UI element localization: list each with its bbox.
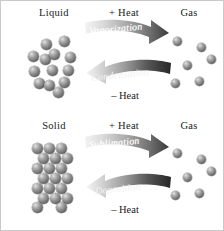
gas-molecule xyxy=(183,61,192,70)
phase-change-diagram: Liquid + Heat Gas Vaporization xyxy=(0,0,224,231)
liquid-molecule xyxy=(59,36,70,47)
condensation-arrow: Condensation xyxy=(81,59,173,91)
gas-molecule xyxy=(195,77,204,86)
sublimation-arrow: Sublimation xyxy=(83,133,171,165)
solid-molecule xyxy=(32,202,43,213)
deposition-arrow: Deposition xyxy=(81,173,173,205)
gas-molecule xyxy=(183,173,192,182)
label-liquid: Liquid xyxy=(23,7,85,18)
label-minus-heat-top: – Heat xyxy=(85,90,165,101)
solid-molecule xyxy=(56,202,67,213)
gas-molecule xyxy=(173,37,182,46)
gas-molecule xyxy=(207,167,216,176)
gas-molecule xyxy=(195,189,204,198)
label-gas-bottom: Gas xyxy=(161,120,217,131)
gas-molecule xyxy=(173,149,182,158)
liquid-molecule xyxy=(41,39,52,50)
label-gas-top: Gas xyxy=(161,7,217,18)
liquid-molecule-cluster xyxy=(25,25,83,99)
liquid-molecule xyxy=(53,87,64,98)
gas-molecule xyxy=(207,55,216,64)
liquid-molecule xyxy=(65,52,76,63)
solid-molecule-lattice xyxy=(29,139,79,215)
label-solid: Solid xyxy=(23,120,85,131)
gas-molecule xyxy=(197,155,206,164)
gas-molecule-cluster-bottom xyxy=(167,141,217,203)
liquid-molecule xyxy=(47,65,58,76)
label-minus-heat-bottom: – Heat xyxy=(85,204,165,215)
liquid-molecule xyxy=(28,51,39,62)
liquid-molecule xyxy=(49,49,60,60)
liquid-molecule xyxy=(63,65,74,76)
panel-solid-gas: Solid + Heat Gas Sublimation xyxy=(1,113,224,231)
vaporization-arrow: Vaporization xyxy=(83,19,171,51)
gas-molecule xyxy=(197,43,206,52)
label-plus-heat-top: + Heat xyxy=(91,7,157,18)
label-plus-heat-bottom: + Heat xyxy=(91,120,157,131)
gas-molecule-cluster-top xyxy=(167,29,217,91)
panel-liquid-gas: Liquid + Heat Gas Vaporization xyxy=(1,1,224,113)
liquid-molecule xyxy=(29,66,40,77)
